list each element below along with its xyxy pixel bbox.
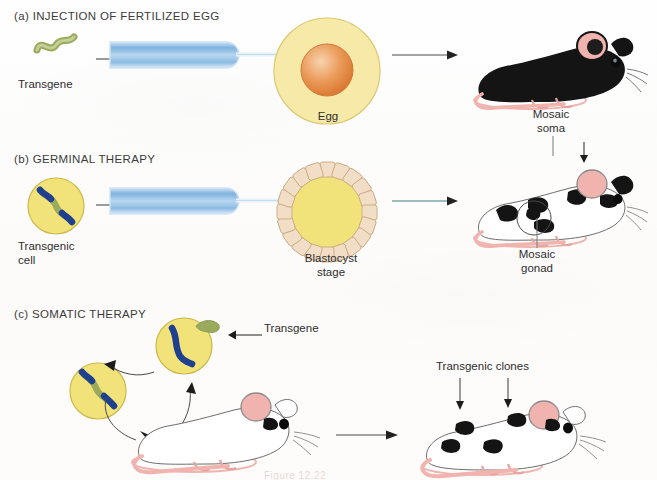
arrow-right-icon <box>336 428 398 442</box>
transgenic-cell-label: Transgenic cell <box>18 240 74 267</box>
mouse-icon <box>416 402 616 480</box>
arrow-right-icon <box>392 48 458 62</box>
figure-canvas: (a) INJECTION OF FERTILIZED EGG Transgen… <box>0 0 657 480</box>
arrow-right-icon <box>392 194 458 208</box>
egg-label: Egg <box>288 110 368 124</box>
micropipette-icon <box>108 36 293 74</box>
mosaic-gonad-label: Mosaic gonad <box>494 248 580 275</box>
blastocyst-label: Blastocyst stage <box>288 252 374 279</box>
transgene-label-a: Transgene <box>18 78 73 92</box>
mouse-icon <box>472 14 652 118</box>
mosaic-gonad-pointer <box>534 218 540 248</box>
section-b-title: (b) GERMINAL THERAPY <box>14 153 155 165</box>
arrow-down-icon <box>578 142 590 164</box>
section-c-title: (c) SOMATIC THERAPY <box>14 308 146 320</box>
section-a-title: (a) INJECTION OF FERTILIZED EGG <box>14 10 220 22</box>
mouse-icon <box>472 152 652 258</box>
micropipette-icon <box>108 182 293 220</box>
transgenic-clones-label: Transgenic clones <box>436 360 529 374</box>
transgenic-cell-icon <box>22 174 90 238</box>
mosaic-soma-label: Mosaic soma <box>508 108 594 135</box>
mouse-icon <box>128 388 328 480</box>
figure-caption: Figure 12.22 <box>264 470 326 480</box>
transgene-dna-icon <box>30 28 84 64</box>
